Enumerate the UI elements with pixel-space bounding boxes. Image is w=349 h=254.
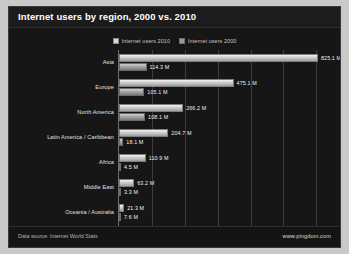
bar-value-label: 825.1 M xyxy=(321,55,341,61)
bar-value-label: 204.7 M xyxy=(171,130,191,136)
gridline xyxy=(283,50,284,226)
bar-2000-3 xyxy=(119,138,123,146)
bar-2000-0 xyxy=(119,63,147,71)
bar-row: 108.1 M xyxy=(119,113,168,121)
footer-bar: Data source: Internet World Stats www.pi… xyxy=(9,226,340,247)
gridline xyxy=(185,50,186,226)
category-axis-labels: AsiaEuropeNorth AmericaLatin America / C… xyxy=(9,50,118,226)
square-swatch-icon xyxy=(179,38,185,44)
bar-2010-6 xyxy=(119,204,124,212)
bar-2010-0 xyxy=(119,54,318,62)
bar-row: 475.1 M xyxy=(119,79,257,87)
infographic-panel: Internet users by region, 2000 vs. 2010 … xyxy=(8,6,341,248)
category-label-4: Africa xyxy=(99,159,114,165)
bar-value-label: 4.5 M xyxy=(124,164,138,170)
gridline xyxy=(251,50,252,226)
chart-legend: Internet users 2010 Internet users 2000 xyxy=(9,35,340,47)
bar-value-label: 266.2 M xyxy=(186,105,206,111)
bar-value-label: 7.6 M xyxy=(124,214,138,220)
site-url-text: www.pingdom.com xyxy=(283,233,331,239)
legend-item-2010: Internet users 2010 xyxy=(113,38,170,44)
bar-row: 204.7 M xyxy=(119,129,192,137)
bar-row: 825.1 M xyxy=(119,54,341,62)
bar-value-label: 114.3 M xyxy=(150,64,170,70)
gridline xyxy=(152,50,153,226)
plot-area: 825.1 M114.3 M475.1 M105.1 M266.2 M108.1… xyxy=(118,50,336,226)
square-swatch-icon xyxy=(113,38,119,44)
bar-row: 7.6 M xyxy=(119,213,138,221)
bar-value-label: 21.3 M xyxy=(127,205,144,211)
bar-2000-5 xyxy=(119,188,121,196)
bar-2000-6 xyxy=(119,213,121,221)
legend-label-2010: Internet users 2010 xyxy=(122,38,170,44)
category-label-1: Europe xyxy=(95,84,114,90)
gridline xyxy=(316,50,317,226)
bar-2000-4 xyxy=(119,163,121,171)
legend-item-2000: Internet users 2000 xyxy=(179,38,236,44)
title-bar: Internet users by region, 2000 vs. 2010 xyxy=(9,7,340,28)
category-label-5: Middle East xyxy=(84,184,114,190)
bar-2000-2 xyxy=(119,113,145,121)
bar-value-label: 475.1 M xyxy=(237,80,257,86)
bar-row: 266.2 M xyxy=(119,104,206,112)
legend-label-2000: Internet users 2000 xyxy=(188,38,236,44)
bar-row: 110.9 M xyxy=(119,154,169,162)
category-label-0: Asia xyxy=(103,59,114,65)
category-label-2: North America xyxy=(77,109,114,115)
category-label-6: Oceania / Australia xyxy=(65,209,114,215)
bar-value-label: 110.9 M xyxy=(149,155,169,161)
bar-2010-4 xyxy=(119,154,146,162)
data-source-text: Data source: Internet World Stats xyxy=(18,233,98,239)
page-title: Internet users by region, 2000 vs. 2010 xyxy=(18,11,196,22)
bar-value-label: 18.1 M xyxy=(126,139,143,145)
bar-value-label: 105.1 M xyxy=(147,89,167,95)
category-label-3: Latin America / Caribbean xyxy=(47,134,114,140)
bar-row: 3.3 M xyxy=(119,188,138,196)
bar-row: 63.2 M xyxy=(119,179,154,187)
bar-row: 105.1 M xyxy=(119,88,168,96)
bar-row: 21.3 M xyxy=(119,204,144,212)
bar-row: 4.5 M xyxy=(119,163,138,171)
chart-plot-wrapper: AsiaEuropeNorth AmericaLatin America / C… xyxy=(9,50,341,226)
bar-value-label: 63.2 M xyxy=(137,180,154,186)
bar-2010-5 xyxy=(119,179,134,187)
bar-row: 114.3 M xyxy=(119,63,169,71)
bar-2010-3 xyxy=(119,129,168,137)
bar-2010-2 xyxy=(119,104,183,112)
bar-2000-1 xyxy=(119,88,144,96)
gridline xyxy=(218,50,219,226)
bar-row: 18.1 M xyxy=(119,138,143,146)
bar-2010-1 xyxy=(119,79,234,87)
bar-value-label: 3.3 M xyxy=(124,189,138,195)
bar-value-label: 108.1 M xyxy=(148,114,168,120)
